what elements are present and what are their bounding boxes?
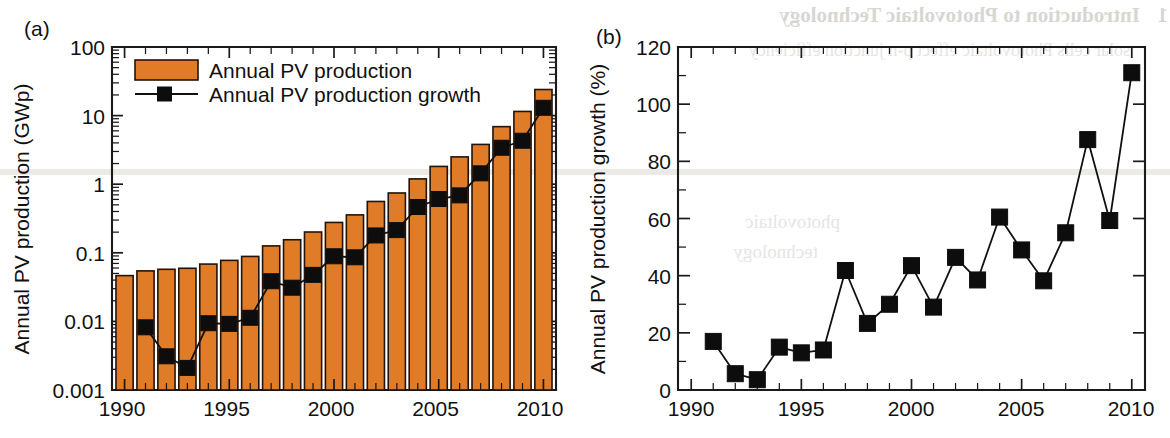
panel-a-growth-marker-2005 [431,192,446,207]
panel-a-y-axis-title: Annual PV production (GWp) [10,84,33,355]
panel-a-ytick-10: 10 [82,105,105,128]
panel-b-ytick-40: 40 [648,265,671,288]
panel-a-growth-marker-2002 [368,228,383,243]
panel-a-bar-1997 [263,246,280,390]
panel-a-growth-marker-2006 [452,188,467,203]
figure-svg: Introduction to Photovoltaic Technology … [0,0,1170,438]
panel-b-ytick-120: 120 [636,36,671,59]
panel-a-growth-marker-2004 [410,200,425,215]
panel-b-marker-1999 [881,296,897,312]
panel-b-marker-1996 [815,342,831,358]
showthrough-heading: Introduction to Photovoltaic Technology [779,3,1140,27]
panel-b-ytick-100: 100 [636,93,671,116]
panel-b-y-axis-title: Annual PV production growth (%) [586,64,609,375]
panel-a-ytick-0.01: 0.01 [64,310,105,333]
panel-a-ytick-1: 1 [93,173,105,196]
panel-b-marker-1992 [727,366,743,382]
panel-a-growth-marker-2001 [347,250,362,265]
panel-a-growth-marker-2010 [536,100,551,115]
panel-a-growth-marker-1997 [264,274,279,289]
panel-a-bar-2001 [346,215,363,390]
legend-marker-growth [157,87,172,102]
panel-b-marker-2008 [1080,132,1096,148]
panel-a-bar-1990 [116,276,133,390]
panel-b-marker-1994 [771,339,787,355]
panel-a-xtick-2005: 2005 [412,397,459,420]
panel-b-marker-1991 [705,333,721,349]
panel-b-marker-2001 [926,299,942,315]
panel-b-marker-2007 [1058,225,1074,241]
panel-b-ytick-20: 20 [648,322,671,345]
panel-b-xtick-1995: 1995 [778,397,825,420]
panel-b-marker-1997 [837,263,853,279]
panel-a-growth-marker-2008 [494,140,509,155]
panel-b-letter: (b) [596,25,622,48]
panel-b-marker-1995 [793,345,809,361]
panel-b-marker-2006 [1036,273,1052,289]
panel-a-ytick-100: 100 [70,36,105,59]
panel-a-growth-marker-1991 [138,320,153,335]
panel-a-growth-marker-2000 [327,249,342,264]
panel-a-bar-2010 [535,90,552,390]
panel-a-growth-marker-1992 [159,349,174,364]
panel-a-bar-2009 [514,111,531,390]
showthrough-line2: solar cells Photovoltaic effect p-n junc… [749,40,1130,60]
panel-b-xtick-1990: 1990 [668,397,715,420]
panel-b-xtick-2005: 2005 [998,397,1045,420]
panel-a-ytick-0.1: 0.1 [76,242,105,265]
panel-b-marker-2010 [1124,65,1140,81]
panel-a-xtick-1995: 1995 [203,397,250,420]
panel-a-growth-marker-2007 [473,166,488,181]
showthrough-heading-number: 1 [1158,3,1169,27]
panel-a-growth-marker-1998 [285,280,300,295]
panel-a-growth-marker-1993 [180,360,195,375]
panel-b-xtick-2010: 2010 [1108,397,1155,420]
panel-b-marker-1993 [749,372,765,388]
legend-label-growth: Annual PV production growth [209,83,481,106]
panel-b-ytick-80: 80 [648,150,671,173]
panel-a-xtick-2010: 2010 [517,397,564,420]
panel-b-xtick-2000: 2000 [888,397,935,420]
panel-a-growth-marker-2009 [515,133,530,148]
panel-a-ytick-0.001: 0.001 [52,379,105,402]
panel-a-bar-1992 [158,269,175,390]
panel-b-ytick-60: 60 [648,208,671,231]
panel-a-xtick-2000: 2000 [308,397,355,420]
panel-b-marker-2005 [1014,242,1030,258]
panel-a-growth-marker-1999 [306,267,321,282]
panel-a-xtick-1990: 1990 [99,397,146,420]
panel-b-marker-2003 [970,272,986,288]
showthrough-word1: photovoltaic [745,211,840,232]
panel-a-bar-1998 [284,240,301,390]
panel-b-marker-2000 [904,258,920,274]
panel-a-bar-2000 [325,222,342,390]
panel-b-marker-2002 [948,249,964,265]
panel-a-bar-2008 [493,127,510,390]
panel-a-bar-1999 [304,232,321,390]
panel-a-growth-marker-2003 [389,223,404,238]
figure-container: Introduction to Photovoltaic Technology … [0,0,1170,438]
legend-swatch-production [135,60,198,80]
panel-a-letter: (a) [24,17,50,40]
showthrough-word2: technology [733,241,818,262]
panel-b-marker-2004 [992,209,1008,225]
panel-a-growth-marker-1996 [243,310,258,325]
panel-a-growth-marker-1994 [201,316,216,331]
panel-a-growth-marker-1995 [222,316,237,331]
panel-b-marker-2009 [1102,213,1118,229]
legend-label-production: Annual PV production [209,59,412,82]
panel-b-marker-1998 [859,315,875,331]
